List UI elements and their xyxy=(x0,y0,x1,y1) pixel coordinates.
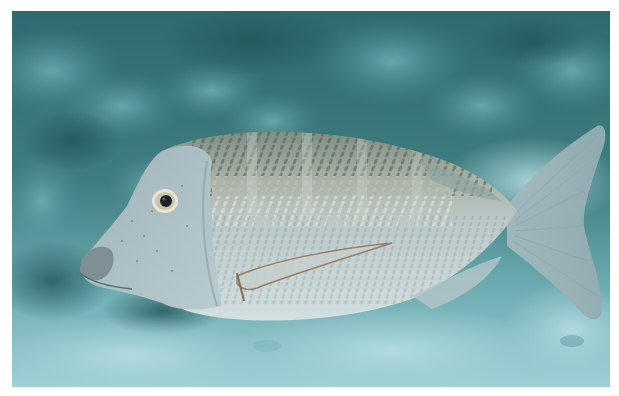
clipped-caption-area xyxy=(0,0,619,11)
fish-eye xyxy=(152,189,178,213)
fish-photo xyxy=(12,11,610,387)
fish-photo-canvas xyxy=(12,11,610,387)
